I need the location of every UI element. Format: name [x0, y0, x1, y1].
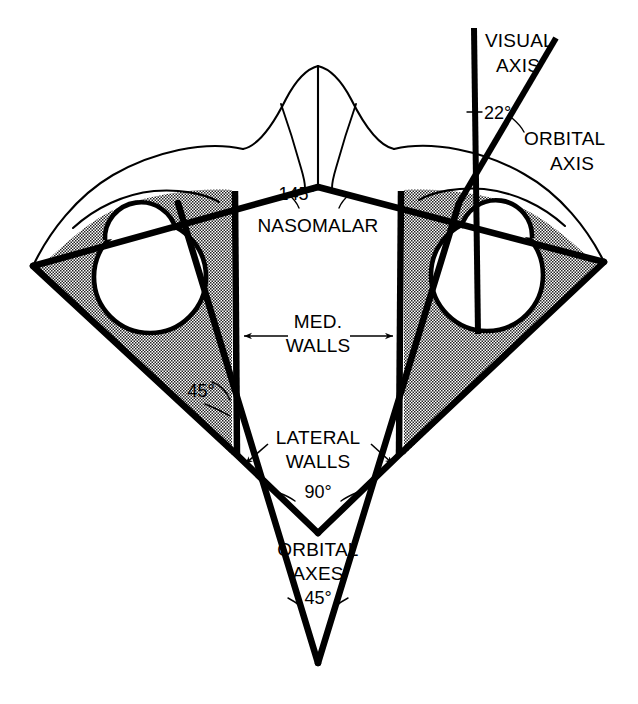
nose-right-outline	[318, 66, 394, 149]
lateral-walls-label-line1: LATERAL	[276, 427, 360, 448]
nose-inner-left-outline	[281, 104, 305, 188]
right-medial-wall	[399, 191, 401, 455]
angle-90-label: 90°	[304, 482, 331, 502]
orbital-axes-label-line2: AXES	[292, 563, 344, 584]
nose-inner-right-outline	[332, 104, 356, 188]
lateral-walls-label-line2: WALLS	[286, 451, 351, 472]
diagram-canvas: VISUAL AXIS 22° ORBITAL AXIS 145° NASOMA…	[0, 0, 638, 704]
visual-axis-label-line2: AXIS	[496, 55, 540, 76]
orbital-axis-label-line1: ORBITAL	[524, 128, 605, 149]
visual-axis-label-line1: VISUAL	[485, 30, 554, 51]
angle-145-label: 145°	[278, 184, 315, 204]
med-walls-label-line1: MED.	[294, 311, 342, 332]
med-walls-label-line2: WALLS	[286, 335, 351, 356]
orbital-axes-label-line1: ORBITAL	[277, 539, 358, 560]
orbital-axes-diagram: VISUAL AXIS 22° ORBITAL AXIS 145° NASOMA…	[0, 0, 638, 704]
nasomalar-label: NASOMALAR	[257, 215, 378, 236]
angle-22-leader-right	[512, 118, 524, 132]
angle-45-bottom-label: 45°	[304, 588, 331, 608]
angle-22-label: 22°	[484, 103, 511, 123]
orbital-axis-label-line2: AXIS	[550, 153, 594, 174]
angle-45-left-label: 45°	[187, 381, 214, 401]
nose-left-outline	[243, 66, 318, 149]
left-medial-wall	[235, 191, 237, 455]
